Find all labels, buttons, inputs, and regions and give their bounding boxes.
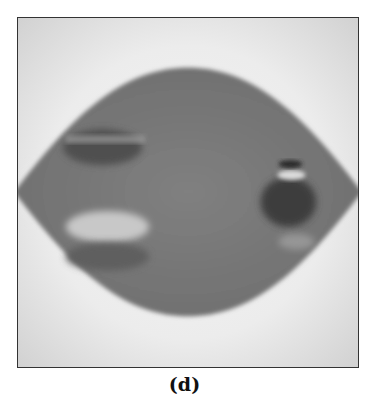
panel-label: (d) <box>0 372 369 396</box>
reconstruction-image <box>18 18 358 367</box>
light-feature-lower-left <box>66 211 150 243</box>
dark-feature-lower-left <box>66 243 150 271</box>
image-panel <box>17 17 359 368</box>
light-band-right <box>277 170 305 180</box>
edge-highlight-upper-left <box>66 135 146 143</box>
dark-feature-upper-left <box>63 129 143 165</box>
dark-band-right <box>278 160 302 168</box>
dark-spot-right <box>261 177 317 227</box>
light-patch-right <box>278 234 314 250</box>
